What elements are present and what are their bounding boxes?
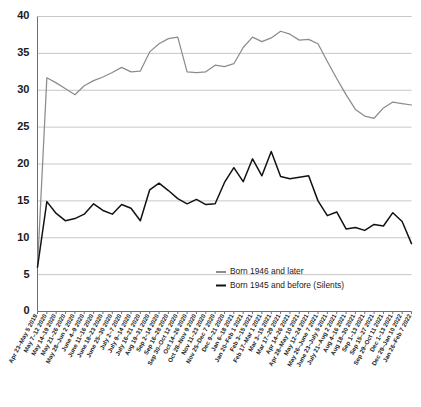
y-tick-label: 5	[23, 268, 29, 280]
chart-legend: Born 1946 and laterBorn 1945 and before …	[216, 266, 344, 290]
legend-label[interactable]: Born 1945 and before (Silents)	[230, 280, 344, 290]
x-axis-tick-labels: Apr 23–May 5 2019May 7–12 2020May 14–19 …	[7, 312, 413, 368]
gridlines-group	[38, 17, 412, 275]
chart-container: 0510152025303540 Apr 23–May 5 2019May 7–…	[0, 0, 421, 407]
y-tick-label: 30	[17, 83, 29, 95]
legend-label[interactable]: Born 1946 and later	[230, 266, 304, 276]
y-tick-label: 20	[17, 157, 29, 169]
y-tick-label: 25	[17, 120, 29, 132]
y-tick-label: 40	[17, 9, 29, 21]
y-axis-tick-labels: 0510152025303540	[17, 9, 29, 316]
y-tick-label: 15	[17, 194, 29, 206]
series-group	[38, 31, 412, 267]
series-line-born-1946-and-later	[38, 31, 412, 267]
series-line-born-1945-and-before	[38, 151, 412, 267]
y-tick-label: 0	[23, 304, 29, 316]
line-chart: 0510152025303540 Apr 23–May 5 2019May 7–…	[0, 0, 421, 407]
y-tick-label: 10	[17, 231, 29, 243]
y-tick-label: 35	[17, 46, 29, 58]
